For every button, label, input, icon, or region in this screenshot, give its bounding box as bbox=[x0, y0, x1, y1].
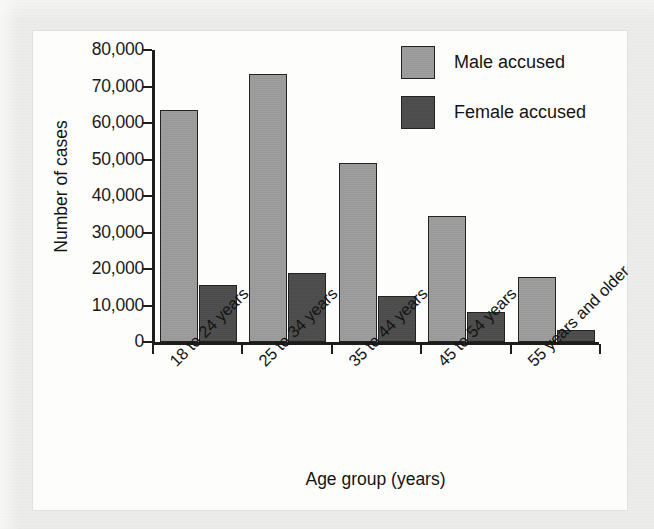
y-axis-tick-label: 20,000 bbox=[24, 258, 144, 279]
bar-male-1 bbox=[160, 110, 198, 342]
y-axis-tick-label: 0 bbox=[24, 331, 144, 352]
legend-label: Male accused bbox=[454, 52, 565, 73]
y-axis-tick-label: 80,000 bbox=[24, 39, 144, 60]
x-axis-tick bbox=[420, 344, 422, 354]
x-axis-title: Age group (years) bbox=[152, 469, 599, 490]
y-axis-tick bbox=[143, 195, 152, 197]
y-axis-tick bbox=[143, 159, 152, 161]
y-axis-tick-label: 40,000 bbox=[24, 185, 144, 206]
x-axis-tick bbox=[152, 344, 154, 354]
x-axis-tick bbox=[599, 344, 601, 354]
y-axis-tick bbox=[143, 122, 152, 124]
y-axis-tick-label: 70,000 bbox=[24, 76, 144, 97]
legend-item-female: Female accused bbox=[401, 95, 586, 129]
bar-male-4 bbox=[428, 216, 466, 342]
x-axis-tick bbox=[241, 344, 243, 354]
figure-panel: Number of cases 010,00020,00030,00040,00… bbox=[33, 31, 627, 510]
x-axis-tick bbox=[331, 344, 333, 354]
bar-male-2 bbox=[249, 74, 287, 342]
bar-male-3 bbox=[339, 163, 377, 342]
y-axis-tick-label: 30,000 bbox=[24, 222, 144, 243]
legend-swatch-female bbox=[401, 96, 435, 129]
y-axis-tick bbox=[143, 232, 152, 234]
y-axis-tick bbox=[143, 268, 152, 270]
y-axis-tick bbox=[143, 86, 152, 88]
chart-legend: Male accusedFemale accused bbox=[401, 45, 586, 145]
legend-label: Female accused bbox=[454, 102, 586, 123]
legend-item-male: Male accused bbox=[401, 45, 586, 79]
y-axis-line bbox=[152, 50, 155, 344]
y-axis-tick-label: 60,000 bbox=[24, 112, 144, 133]
y-axis-tick-label: 10,000 bbox=[24, 295, 144, 316]
y-axis-tick-label: 50,000 bbox=[24, 149, 144, 170]
y-axis-tick bbox=[143, 341, 152, 343]
y-axis-tick bbox=[143, 305, 152, 307]
legend-swatch-male bbox=[401, 46, 435, 79]
chart-plot-area: Number of cases 010,00020,00030,00040,00… bbox=[33, 31, 627, 510]
y-axis-tick bbox=[143, 49, 152, 51]
x-axis-tick bbox=[510, 344, 512, 354]
